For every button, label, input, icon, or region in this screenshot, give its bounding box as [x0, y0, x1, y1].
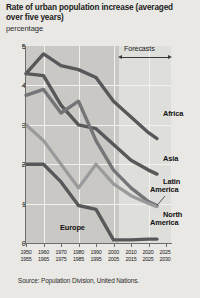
forecast-arrow-left [118, 55, 122, 59]
x-tick-mark-2 [61, 244, 62, 247]
forecast-label: Forecasts [124, 44, 155, 53]
source-note: Source: Population Division, United Nati… [18, 277, 139, 284]
x-label-top-8: 2025 [154, 249, 176, 255]
series-line-europe [26, 164, 157, 240]
chart-title-line-2: over five years) [6, 13, 194, 23]
series-label-asia: Asia [163, 155, 178, 163]
forecast-arrow-line [122, 57, 168, 58]
chart-subtitle: percentage [6, 24, 194, 34]
series-line-africa [26, 54, 157, 139]
x-tick-mark-0 [26, 244, 27, 247]
series-label-africa: Africa [163, 110, 183, 118]
x-tick-mark-4 [96, 244, 97, 247]
series-label-north-america-line2: America [150, 219, 178, 227]
x-tick-mark-1 [44, 244, 45, 247]
x-tick-mark-6 [131, 244, 132, 247]
series-label-europe: Europe [60, 224, 85, 232]
y-axis-line [25, 46, 26, 244]
chart-title-line-1: Rate of urban population increase (avera… [6, 3, 194, 13]
x-label-bottom-8: 2030 [154, 256, 176, 262]
plot-area [26, 46, 171, 243]
series-line-latin-america [26, 89, 157, 205]
series-lines [26, 46, 171, 243]
series-label-latin-america-line2: America [150, 186, 178, 194]
x-tick-mark-7 [149, 244, 150, 247]
x-tick-mark-3 [79, 244, 80, 247]
x-axis-line [25, 243, 172, 244]
x-tick-mark-5 [114, 244, 115, 247]
title-block: Rate of urban population increase (avera… [6, 3, 194, 34]
x-tick-mark-8 [166, 244, 167, 247]
chart-card: Rate of urban population increase (avera… [0, 0, 200, 298]
forecast-arrow-right [168, 55, 172, 59]
latin-america-leader-line [157, 196, 165, 206]
y-tick-label-1: 1 [6, 201, 26, 209]
